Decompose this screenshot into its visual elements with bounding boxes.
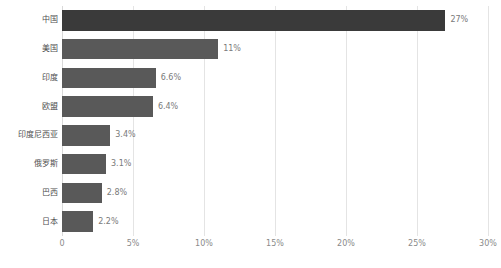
bar-value-label: 27% — [450, 16, 468, 24]
bar[interactable] — [62, 125, 110, 146]
bar-rows: 27%11%6.6%6.4%3.4%3.1%2.8%2.2% — [62, 6, 488, 236]
bar-row[interactable]: 11% — [62, 39, 488, 60]
chart-title-clipped: 各国二氧化碳排放量统计图 — [0, 0, 501, 4]
bar-row[interactable]: 3.4% — [62, 125, 488, 146]
bar-chart: 各国二氧化碳排放量统计图 中国美国印度欧盟印度尼西亚俄罗斯巴西日本 27%11%… — [0, 0, 501, 268]
bar-row[interactable]: 2.2% — [62, 211, 488, 232]
bar-row[interactable]: 6.6% — [62, 68, 488, 89]
bar[interactable] — [62, 154, 106, 175]
bar-value-label: 6.4% — [158, 103, 178, 111]
category-label: 巴西 — [0, 189, 58, 197]
x-tick-label: 15% — [266, 240, 284, 248]
bar[interactable] — [62, 68, 156, 89]
category-label: 印度 — [0, 74, 58, 82]
bar-value-label: 3.1% — [111, 160, 131, 168]
bar[interactable] — [62, 10, 445, 31]
bar-row[interactable]: 6.4% — [62, 96, 488, 117]
category-label: 俄罗斯 — [0, 160, 58, 168]
y-axis-category-labels: 中国美国印度欧盟印度尼西亚俄罗斯巴西日本 — [0, 6, 58, 236]
x-tick-label: 20% — [337, 240, 355, 248]
gridline-30 — [488, 6, 489, 236]
x-axis-tick-labels: 05%10%15%20%25%30% — [62, 240, 488, 254]
bar[interactable] — [62, 211, 93, 232]
category-label: 中国 — [0, 16, 58, 24]
bar[interactable] — [62, 183, 102, 204]
bar[interactable] — [62, 96, 153, 117]
bar-value-label: 3.4% — [115, 131, 135, 139]
category-label: 印度尼西亚 — [0, 131, 58, 139]
bar[interactable] — [62, 39, 218, 60]
category-label: 日本 — [0, 218, 58, 226]
bar-value-label: 2.8% — [107, 189, 127, 197]
bar-value-label: 2.2% — [98, 218, 118, 226]
x-tick-label: 30% — [479, 240, 497, 248]
plot-area: 27%11%6.6%6.4%3.4%3.1%2.8%2.2% — [62, 6, 488, 236]
category-label: 欧盟 — [0, 103, 58, 111]
x-tick-label: 10% — [195, 240, 213, 248]
bar-row[interactable]: 2.8% — [62, 183, 488, 204]
bar-row[interactable]: 3.1% — [62, 154, 488, 175]
x-tick-label: 0 — [59, 240, 64, 248]
category-label: 美国 — [0, 45, 58, 53]
bar-value-label: 11% — [223, 45, 241, 53]
x-tick-label: 25% — [408, 240, 426, 248]
x-tick-label: 5% — [127, 240, 140, 248]
bar-value-label: 6.6% — [161, 74, 181, 82]
bar-row[interactable]: 27% — [62, 10, 488, 31]
